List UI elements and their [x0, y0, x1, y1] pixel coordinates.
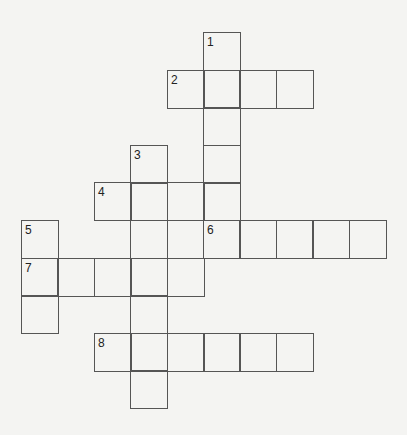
- crossword-cell[interactable]: [239, 220, 277, 259]
- crossword-cell[interactable]: [349, 220, 387, 259]
- crossword-cell[interactable]: [239, 70, 277, 109]
- clue-number: 4: [98, 185, 105, 199]
- crossword-cell[interactable]: [57, 258, 95, 297]
- crossword-cell[interactable]: [167, 182, 205, 221]
- crossword-cell[interactable]: [276, 220, 314, 259]
- crossword-cell[interactable]: [203, 145, 241, 184]
- crossword-cell[interactable]: [167, 258, 205, 297]
- crossword-cell[interactable]: [203, 107, 241, 146]
- clue-number: 2: [171, 73, 178, 87]
- crossword-cell[interactable]: [276, 70, 314, 109]
- crossword-cell[interactable]: [203, 70, 241, 109]
- crossword-cell[interactable]: [21, 295, 59, 334]
- crossword-cell[interactable]: [130, 333, 168, 372]
- clue-number: 8: [98, 336, 105, 350]
- crossword-cell[interactable]: [276, 333, 314, 372]
- clue-number: 1: [207, 35, 214, 49]
- clue-number: 6: [207, 223, 214, 237]
- clue-number: 5: [25, 223, 32, 237]
- crossword-cell[interactable]: [239, 333, 277, 372]
- crossword-cell[interactable]: [167, 333, 205, 372]
- clue-number: 3: [134, 148, 141, 162]
- crossword-cell[interactable]: [312, 220, 350, 259]
- crossword-cell[interactable]: [130, 295, 168, 334]
- crossword-grid: 12345678: [0, 0, 407, 435]
- clue-number: 7: [25, 261, 32, 275]
- crossword-cell[interactable]: [94, 258, 132, 297]
- crossword-cell[interactable]: [203, 182, 241, 221]
- crossword-cell[interactable]: [130, 370, 168, 409]
- crossword-cell[interactable]: [130, 182, 168, 221]
- crossword-cell[interactable]: [130, 220, 168, 259]
- crossword-cell[interactable]: [203, 333, 241, 372]
- crossword-cell[interactable]: [130, 258, 168, 297]
